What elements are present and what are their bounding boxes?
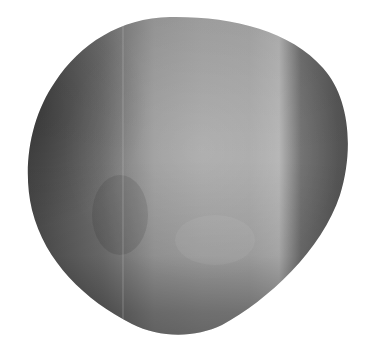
pebble-shape <box>0 0 367 355</box>
pebble-image <box>0 0 367 355</box>
